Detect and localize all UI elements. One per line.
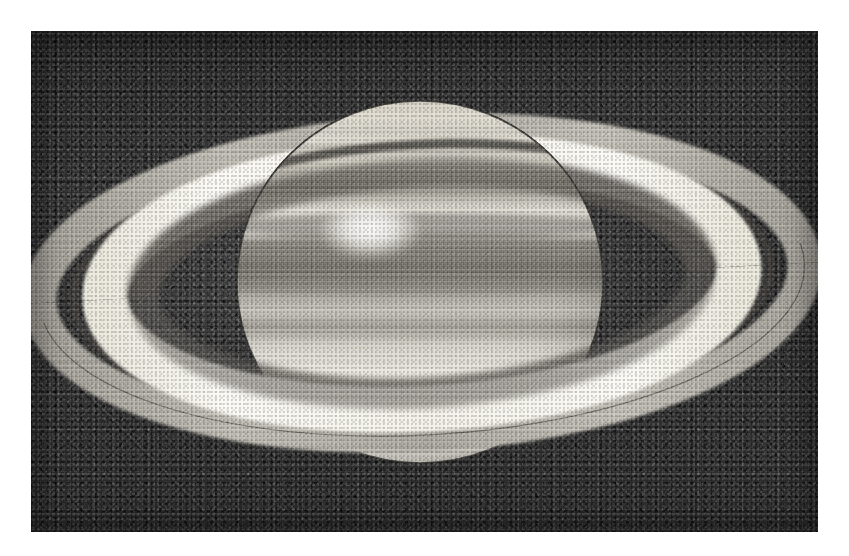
saturn-system: [31, 31, 818, 532]
saturn-photograph: [31, 31, 818, 532]
page-canvas: Black and white halftone photograph of t…: [0, 0, 849, 556]
